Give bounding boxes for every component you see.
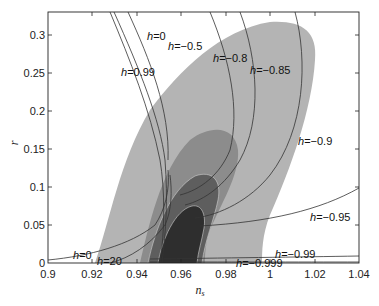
confidence-regions xyxy=(95,22,315,263)
curve-label-h-minus-0.95: h=−0.95 xyxy=(310,211,350,223)
chart: 0.9 0.92 0.94 0.96 0.98 1 1.02 1.04 0 0.… xyxy=(0,0,379,306)
x-tick-label: 1.02 xyxy=(304,268,325,280)
y-tick-label: 0.25 xyxy=(24,67,45,79)
x-tick-label: 0.94 xyxy=(126,268,147,280)
y-tick-label: 0 xyxy=(39,257,45,269)
y-tick-label: 0.3 xyxy=(30,29,45,41)
curve-label-h-minus-0.85: h=−0.85 xyxy=(250,64,290,76)
curve-label-h-20: h=20 xyxy=(97,255,122,267)
y-axis-label: r xyxy=(7,140,21,145)
x-tick-label: 1 xyxy=(267,268,273,280)
x-tick-label: 0.96 xyxy=(170,268,191,280)
curve-label-h-minus-0.9: h=−0.9 xyxy=(298,135,332,147)
y-tick-label: 0.1 xyxy=(30,181,45,193)
y-tick-label: 0.15 xyxy=(24,143,45,155)
y-tick-label: 0.05 xyxy=(24,219,45,231)
x-axis-label: ns xyxy=(195,283,204,298)
curve-label-h-minus-0.8: h=−0.8 xyxy=(213,52,247,64)
curve-label-h-0.99: h=0.99 xyxy=(121,66,155,78)
curve-label-h-0: h=0 xyxy=(147,30,166,42)
x-tick-label: 0.92 xyxy=(81,268,102,280)
curve-label-h-0-lower: h=0 xyxy=(73,249,92,261)
x-tick-label: 0.98 xyxy=(215,268,236,280)
curve-label-h-minus-0.5: h=−0.5 xyxy=(168,40,202,52)
y-tick-label: 0.2 xyxy=(30,105,45,117)
x-tick-label: 0.9 xyxy=(40,268,55,280)
x-tick-label: 1.04 xyxy=(348,268,369,280)
curve-label-h-minus-0.999: h=−0.999 xyxy=(236,257,283,269)
